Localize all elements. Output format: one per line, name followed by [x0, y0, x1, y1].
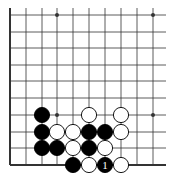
star-point — [55, 13, 59, 17]
star-point — [151, 113, 155, 117]
black-stone — [97, 124, 112, 139]
white-stone — [49, 124, 64, 139]
white-stone — [97, 140, 112, 155]
white-stone — [81, 157, 96, 172]
black-stone — [81, 140, 96, 155]
go-board: 1 — [0, 0, 169, 182]
white-stone — [113, 107, 128, 122]
black-stone: 1 — [97, 157, 112, 172]
white-stone — [65, 124, 80, 139]
black-stone — [34, 124, 49, 139]
black-stone — [34, 140, 49, 155]
black-stone — [34, 107, 49, 122]
black-stone — [49, 140, 64, 155]
black-stone — [81, 124, 96, 139]
white-stone — [81, 107, 96, 122]
white-stone — [113, 157, 128, 172]
star-point — [55, 113, 59, 117]
stones-layer: 1 — [34, 107, 128, 172]
black-stone — [65, 157, 80, 172]
white-stone — [65, 140, 80, 155]
star-point — [151, 13, 155, 17]
white-stone — [113, 124, 128, 139]
move-number-label: 1 — [102, 159, 108, 171]
